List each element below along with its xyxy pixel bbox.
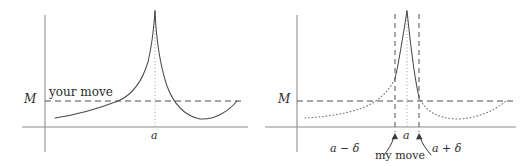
my-move-plot bbox=[262, 0, 524, 166]
curve-solid-left bbox=[395, 11, 407, 79]
curve-solid-right bbox=[407, 11, 419, 97]
level-label-M: M bbox=[24, 93, 36, 105]
limit-game-figure: M a your move bbox=[0, 0, 524, 166]
curve-dotted-left bbox=[305, 79, 395, 118]
my-move-annotation: my move bbox=[375, 150, 425, 161]
arrow-left-head bbox=[392, 133, 399, 140]
right-delta-label: a + δ bbox=[432, 143, 461, 154]
curve-left-branch bbox=[55, 11, 155, 118]
curve-dotted-right bbox=[419, 97, 506, 119]
level-label-M: M bbox=[278, 93, 290, 105]
my-move-panel: M a a − δ a + δ my move bbox=[262, 0, 524, 166]
asymptote-label-a: a bbox=[151, 130, 158, 141]
left-delta-label: a − δ bbox=[330, 143, 359, 154]
asymptote-label-a: a bbox=[403, 130, 410, 141]
your-move-annotation: your move bbox=[49, 86, 113, 98]
curve-right-branch bbox=[155, 11, 237, 119]
arrow-right-head bbox=[416, 133, 423, 140]
your-move-panel: M a your move bbox=[0, 0, 262, 166]
your-move-plot bbox=[0, 0, 262, 166]
